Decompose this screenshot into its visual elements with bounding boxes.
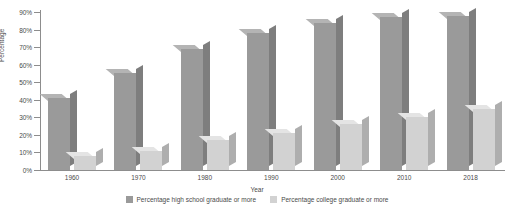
legend-swatch-icon-college [270,196,277,203]
bar-front-face [247,33,269,170]
bar-2018-high-school [447,16,469,170]
bar-1990-college [273,133,295,170]
bar-1970-college [140,151,162,170]
x-tick-label-1980: 1980 [198,174,212,181]
x-tick-label-1970: 1970 [131,174,145,181]
bar-2018-college [473,109,495,170]
bar-front-face [380,17,402,170]
bar-2000-high-school [314,23,336,170]
bar-side-face [229,132,236,166]
legend-label-high-school: Percentage high school graduate or more [137,196,257,203]
chart-legend: Percentage high school graduate or more … [0,196,514,203]
y-tick-label: 10% [0,149,32,156]
bar-side-face [495,101,502,166]
bar-2010-college [406,117,428,170]
bar-front-face [273,133,295,170]
y-tick-label: 20% [0,131,32,138]
bar-1960-college [74,156,96,170]
bar-front-face [314,23,336,170]
bar-front-face [140,151,162,170]
y-tick-label: 90% [0,9,32,16]
bar-2010-high-school [380,17,402,170]
bar-1970-high-school [114,73,136,170]
bar-front-face [48,98,70,170]
y-tick-mark [34,170,40,171]
x-tick-label-2010: 2010 [397,174,411,181]
y-tick-label: 30% [0,114,32,121]
bar-side-face [428,109,435,166]
bar-front-face [340,124,362,170]
legend-item-college: Percentage college graduate or more [270,196,388,203]
bar-2000-college [340,124,362,170]
y-tick-label: 40% [0,96,32,103]
x-tick-label-2018: 2018 [463,174,477,181]
bar-front-face [473,109,495,170]
bar-front-face [114,73,136,170]
legend-item-high-school: Percentage high school graduate or more [126,196,257,203]
bar-front-face [74,156,96,170]
bar-front-face [406,117,428,170]
x-axis-line [40,170,505,171]
bar-1960-high-school [48,98,70,170]
legend-swatch-icon-high-school [126,196,133,203]
bar-1980-high-school [181,49,203,170]
y-tick-label: 60% [0,61,32,68]
bar-chart: Percentage 0%10%20%30%40%50%60%70%80%90%… [0,0,514,214]
y-tick-label: 0% [0,167,32,174]
bar-front-face [207,140,229,170]
legend-label-college: Percentage college graduate or more [281,196,388,203]
bar-side-face [362,116,369,166]
x-tick-label-2000: 2000 [330,174,344,181]
plot-area [40,12,505,170]
y-tick-label: 80% [0,26,32,33]
bar-side-face [295,125,302,166]
bar-1980-college [207,140,229,170]
y-tick-label: 70% [0,44,32,51]
bar-front-face [447,16,469,170]
bar-1990-high-school [247,33,269,170]
bar-front-face [181,49,203,170]
y-tick-label: 50% [0,79,32,86]
x-tick-label-1990: 1990 [264,174,278,181]
bar-side-face [96,148,103,166]
x-axis-title: Year [0,186,514,193]
bar-side-face [162,143,169,166]
x-tick-label-1960: 1960 [65,174,79,181]
